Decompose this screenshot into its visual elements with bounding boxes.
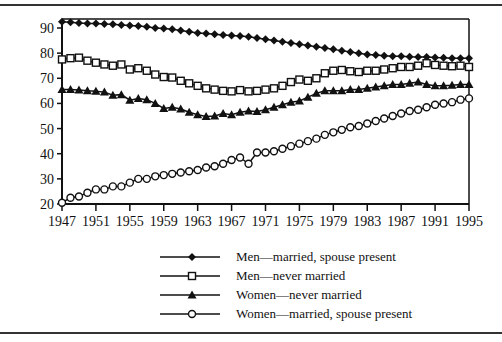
open-square-marker-icon bbox=[313, 75, 320, 82]
x-axis: 1947195119551959196319671971197519791983… bbox=[48, 204, 483, 229]
open-circle-marker-icon bbox=[237, 154, 244, 161]
filled-diamond-marker-icon bbox=[75, 19, 83, 27]
filled-diamond-marker-icon bbox=[457, 54, 465, 62]
open-square-marker-icon bbox=[160, 74, 167, 81]
open-circle-marker-icon bbox=[355, 123, 362, 130]
filled-diamond-marker-icon bbox=[448, 54, 456, 62]
filled-diamond-marker-icon bbox=[92, 19, 100, 27]
filled-diamond-marker-icon bbox=[117, 21, 125, 29]
filled-diamond-marker-icon bbox=[397, 52, 405, 60]
x-tick-label: 1995 bbox=[455, 214, 483, 229]
open-square-marker-icon bbox=[398, 63, 405, 70]
open-square-marker-icon bbox=[287, 79, 294, 86]
legend-label: Men—never married bbox=[236, 268, 345, 284]
x-tick-label: 1983 bbox=[353, 214, 381, 229]
filled-diamond-marker-icon bbox=[211, 30, 219, 38]
open-square-marker-icon bbox=[143, 67, 150, 74]
open-circle-marker-icon bbox=[406, 107, 413, 114]
open-circle-marker-icon bbox=[398, 110, 405, 117]
open-circle-marker-icon bbox=[177, 169, 184, 176]
legend-label: Women—never married bbox=[236, 287, 362, 303]
filled-diamond-marker-icon bbox=[406, 53, 414, 61]
legend-label: Women—married, spouse present bbox=[236, 306, 412, 322]
filled-diamond-marker-icon bbox=[321, 44, 329, 52]
filled-diamond-marker-icon bbox=[346, 48, 354, 56]
filled-diamond-marker-icon bbox=[168, 25, 176, 33]
x-tick-label: 1971 bbox=[252, 214, 280, 229]
filled-diamond-marker-icon bbox=[151, 24, 159, 32]
open-circle-marker-icon bbox=[466, 95, 473, 102]
legend-item: Men—married, spouse present bbox=[160, 247, 412, 266]
open-circle-marker-icon bbox=[347, 124, 354, 131]
open-square-marker-icon bbox=[59, 56, 66, 63]
open-circle-marker-icon bbox=[389, 113, 396, 120]
y-tick-label: 50 bbox=[40, 122, 54, 137]
open-circle-marker-icon bbox=[262, 149, 269, 156]
filled-diamond-marker-icon bbox=[380, 52, 388, 60]
open-square-marker-icon bbox=[372, 67, 379, 74]
filled-diamond-marker-icon bbox=[188, 253, 196, 261]
x-tick-label: 1951 bbox=[82, 214, 110, 229]
filled-diamond-marker-icon bbox=[228, 32, 236, 40]
legend-item: Women—never married bbox=[160, 285, 412, 304]
open-square-marker-icon bbox=[432, 61, 439, 68]
open-circle-marker-icon bbox=[296, 140, 303, 147]
open-circle-marker-icon bbox=[270, 148, 277, 155]
open-circle-marker-icon bbox=[220, 160, 227, 167]
open-square-marker-icon bbox=[152, 71, 159, 78]
open-square-marker-icon bbox=[355, 69, 362, 76]
open-circle-marker-icon bbox=[228, 157, 235, 164]
open-circle-marker-icon bbox=[75, 193, 82, 200]
open-circle-marker-icon bbox=[169, 170, 176, 177]
open-circle-marker-icon bbox=[330, 129, 337, 136]
open-square-marker-icon bbox=[109, 62, 116, 69]
bottom-rule bbox=[0, 332, 502, 334]
open-square-marker-icon bbox=[92, 59, 99, 66]
open-square-marker-icon bbox=[364, 67, 371, 74]
series-1 bbox=[59, 54, 473, 95]
filled-diamond-marker-icon bbox=[440, 54, 448, 62]
filled-triangle-marker-icon bbox=[219, 109, 228, 117]
x-tick-label: 1955 bbox=[116, 214, 144, 229]
open-circle-marker-icon bbox=[92, 186, 99, 193]
open-square-marker-icon bbox=[135, 65, 142, 72]
y-tick-label: 80 bbox=[40, 46, 54, 61]
filled-diamond-marker-icon bbox=[363, 50, 371, 58]
filled-diamond-marker-icon bbox=[355, 49, 363, 57]
x-tick-label: 1975 bbox=[285, 214, 313, 229]
y-tick-label: 30 bbox=[40, 172, 54, 187]
filled-diamond-marker-icon bbox=[414, 53, 422, 61]
filled-diamond-marker-icon bbox=[236, 32, 244, 40]
filled-diamond-marker-icon bbox=[202, 30, 210, 38]
open-circle-marker-icon bbox=[440, 100, 447, 107]
open-circle-marker-icon bbox=[160, 172, 167, 179]
filled-triangle-marker-icon bbox=[168, 103, 177, 111]
legend-swatch-icon bbox=[160, 251, 220, 263]
open-square-marker-icon bbox=[194, 82, 201, 89]
y-axis: 2030405060708090 bbox=[40, 21, 62, 212]
legend-item: Men—never married bbox=[160, 266, 412, 285]
y-tick-label: 60 bbox=[40, 96, 54, 111]
filled-diamond-marker-icon bbox=[83, 19, 91, 27]
filled-triangle-marker-icon bbox=[303, 93, 312, 101]
legend-swatch-icon bbox=[160, 289, 220, 301]
open-circle-marker-icon bbox=[245, 160, 252, 167]
filled-diamond-marker-icon bbox=[372, 51, 380, 59]
filled-diamond-marker-icon bbox=[194, 29, 202, 37]
filled-diamond-marker-icon bbox=[160, 25, 168, 33]
open-square-marker-icon bbox=[304, 77, 311, 84]
filled-diamond-marker-icon bbox=[126, 21, 134, 29]
open-square-marker-icon bbox=[84, 57, 91, 64]
open-square-marker-icon bbox=[177, 77, 184, 84]
open-square-marker-icon bbox=[169, 74, 176, 81]
legend: Men—married, spouse presentMen—never mar… bbox=[160, 247, 412, 323]
open-square-marker-icon bbox=[449, 63, 456, 70]
open-circle-marker-icon bbox=[364, 120, 371, 127]
open-square-marker-icon bbox=[466, 63, 473, 70]
x-tick-label: 1979 bbox=[319, 214, 347, 229]
filled-diamond-marker-icon bbox=[312, 43, 320, 51]
open-square-marker-icon bbox=[381, 66, 388, 73]
open-square-marker-icon bbox=[330, 67, 337, 74]
open-square-marker-icon bbox=[101, 61, 108, 68]
open-circle-marker-icon bbox=[143, 175, 150, 182]
